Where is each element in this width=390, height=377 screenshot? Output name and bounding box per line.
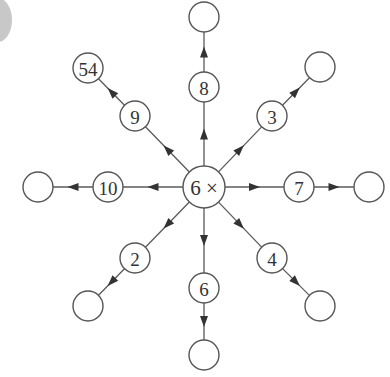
result-node-up-left: 54 bbox=[73, 53, 103, 83]
arrow-icon bbox=[200, 316, 208, 327]
corner-gray-disc bbox=[0, 0, 12, 42]
multiplier-node-up-right: 3 bbox=[257, 101, 287, 131]
multiplier-node-right: 7 bbox=[284, 172, 314, 202]
arrow-icon bbox=[200, 235, 208, 246]
result-node-up-left-label: 54 bbox=[79, 59, 99, 80]
multiplier-node-up-left-label: 9 bbox=[130, 107, 140, 128]
multiplier-node-down: 6 bbox=[189, 273, 219, 303]
multiplier-node-left-label: 10 bbox=[99, 178, 118, 199]
hub-node: 6 × bbox=[183, 166, 225, 208]
arrow-icon bbox=[329, 183, 340, 191]
multiplier-node-up-left: 9 bbox=[120, 101, 150, 131]
arrow-icon bbox=[200, 129, 208, 140]
multiplier-node-right-label: 7 bbox=[294, 178, 304, 199]
multiplier-node-down-right: 4 bbox=[257, 243, 287, 273]
arrow-icon bbox=[68, 183, 79, 191]
multiplier-node-down-left-label: 2 bbox=[130, 249, 140, 270]
multiplier-node-left: 10 bbox=[93, 172, 123, 202]
result-node-down-right bbox=[305, 291, 335, 321]
arrow-icon bbox=[148, 183, 159, 191]
result-node-up bbox=[189, 2, 219, 32]
multiplication-spider-diagram: 83746210954 6 × bbox=[0, 0, 390, 377]
result-node-up-right bbox=[305, 52, 335, 82]
arrow-icon bbox=[249, 183, 260, 191]
hub-label: 6 × bbox=[190, 176, 218, 200]
arrow-icon bbox=[200, 47, 208, 58]
result-node-left bbox=[23, 172, 53, 202]
multiplier-node-up-right-label: 3 bbox=[267, 107, 277, 128]
multiplier-node-down-label: 6 bbox=[199, 279, 209, 300]
result-node-down-left bbox=[73, 291, 103, 321]
result-node-right bbox=[354, 172, 384, 202]
multiplier-node-up: 8 bbox=[189, 72, 219, 102]
multiplier-node-down-left: 2 bbox=[120, 243, 150, 273]
result-node-down bbox=[189, 340, 219, 370]
multiplier-node-down-right-label: 4 bbox=[267, 249, 277, 270]
multiplier-node-up-label: 8 bbox=[199, 78, 209, 99]
